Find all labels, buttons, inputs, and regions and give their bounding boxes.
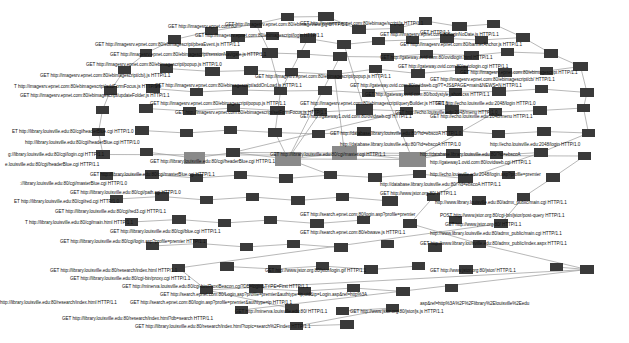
graph-node[interactable]: [540, 67, 553, 75]
graph-node[interactable]: [100, 172, 113, 180]
graph-node[interactable]: [501, 48, 514, 56]
graph-node[interactable]: [314, 108, 327, 116]
graph-node[interactable]: [406, 36, 419, 44]
graph-node[interactable]: [125, 218, 138, 226]
graph-node[interactable]: [297, 50, 310, 58]
graph-node[interactable]: [340, 320, 354, 329]
graph-node[interactable]: [104, 86, 117, 95]
graph-node[interactable]: [534, 148, 548, 157]
graph-node[interactable]: [172, 264, 185, 272]
graph-node[interactable]: [336, 307, 349, 315]
graph-node[interactable]: [573, 62, 588, 71]
graph-node[interactable]: [281, 13, 294, 21]
graph-node[interactable]: [334, 243, 348, 252]
graph-node[interactable]: [582, 129, 595, 137]
graph-node[interactable]: [446, 149, 460, 158]
graph-node[interactable]: [140, 49, 152, 57]
graph-node[interactable]: [546, 173, 560, 182]
graph-node[interactable]: [390, 24, 404, 33]
graph-node[interactable]: [580, 88, 594, 97]
graph-node[interactable]: [356, 104, 373, 115]
graph-node[interactable]: [135, 126, 149, 135]
graph-node[interactable]: [490, 151, 503, 159]
graph-node[interactable]: [262, 48, 278, 58]
graph-node[interactable]: [231, 34, 245, 42]
graph-node[interactable]: [96, 150, 110, 159]
graph-node[interactable]: [578, 152, 591, 160]
graph-node[interactable]: [577, 104, 590, 112]
graph-node[interactable]: [459, 265, 473, 274]
graph-node[interactable]: [249, 284, 263, 293]
graph-node[interactable]: [336, 193, 349, 201]
graph-node[interactable]: [544, 49, 558, 58]
graph-node[interactable]: [427, 193, 440, 201]
graph-node[interactable]: [193, 239, 207, 248]
graph-node[interactable]: [246, 193, 259, 201]
graph-node[interactable]: [517, 193, 530, 201]
graph-node[interactable]: [168, 35, 181, 44]
graph-node[interactable]: [200, 286, 213, 294]
graph-node[interactable]: [235, 306, 248, 314]
graph-node[interactable]: [172, 215, 186, 224]
graph-node[interactable]: [224, 126, 237, 134]
graph-node[interactable]: [413, 170, 426, 178]
graph-node[interactable]: [386, 304, 399, 312]
graph-node[interactable]: [404, 85, 420, 95]
graph-node[interactable]: [287, 240, 300, 248]
graph-node[interactable]: [190, 174, 203, 182]
graph-node[interactable]: [146, 84, 160, 93]
graph-node[interactable]: [310, 219, 324, 228]
graph-node[interactable]: [458, 174, 473, 183]
graph-node[interactable]: [285, 68, 298, 76]
graph-node[interactable]: [337, 40, 351, 49]
graph-node[interactable]: [227, 104, 240, 112]
graph-node[interactable]: [419, 17, 432, 25]
graph-node[interactable]: [403, 219, 417, 228]
graph-node[interactable]: [492, 130, 505, 138]
graph-node[interactable]: [332, 146, 357, 160]
graph-node[interactable]: [449, 216, 462, 224]
graph-node[interactable]: [279, 174, 293, 183]
graph-node[interactable]: [244, 66, 258, 75]
graph-node[interactable]: [489, 108, 502, 116]
graph-node[interactable]: [492, 87, 506, 96]
graph-node[interactable]: [420, 50, 433, 58]
graph-node[interactable]: [580, 265, 594, 274]
graph-node[interactable]: [183, 107, 196, 115]
graph-node[interactable]: [234, 171, 247, 179]
graph-node[interactable]: [290, 322, 303, 330]
graph-node[interactable]: [140, 148, 153, 156]
graph-node[interactable]: [327, 70, 342, 79]
graph-node[interactable]: [362, 89, 375, 97]
graph-node[interactable]: [220, 262, 234, 271]
graph-node[interactable]: [357, 127, 371, 136]
graph-node[interactable]: [502, 171, 515, 179]
graph-node[interactable]: [368, 173, 382, 182]
graph-node[interactable]: [369, 65, 382, 73]
graph-node[interactable]: [464, 51, 479, 60]
graph-node[interactable]: [364, 265, 378, 274]
graph-node[interactable]: [396, 287, 410, 296]
graph-node[interactable]: [200, 196, 213, 204]
graph-node[interactable]: [96, 106, 109, 114]
graph-node[interactable]: [190, 88, 203, 96]
graph-node[interactable]: [218, 219, 231, 227]
graph-node[interactable]: [184, 152, 205, 164]
graph-node[interactable]: [399, 152, 426, 167]
graph-node[interactable]: [445, 284, 458, 292]
graph-node[interactable]: [352, 25, 366, 34]
graph-node[interactable]: [516, 33, 530, 42]
graph-node[interactable]: [274, 87, 287, 95]
graph-node[interactable]: [411, 69, 425, 78]
graph-node[interactable]: [381, 53, 394, 61]
graph-node[interactable]: [449, 88, 462, 96]
graph-node[interactable]: [146, 242, 159, 250]
graph-node[interactable]: [412, 262, 425, 270]
graph-node[interactable]: [226, 148, 240, 157]
graph-node[interactable]: [452, 22, 467, 31]
graph-node[interactable]: [447, 126, 463, 136]
graph-node[interactable]: [537, 127, 551, 136]
graph-node[interactable]: [291, 196, 305, 205]
graph-node[interactable]: [270, 106, 285, 115]
graph-node[interactable]: [205, 27, 218, 35]
